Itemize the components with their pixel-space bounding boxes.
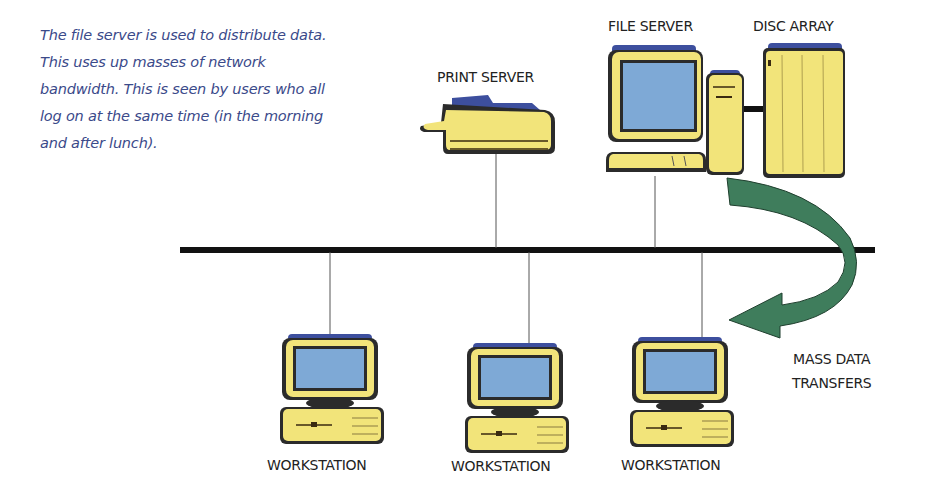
file-server-icon: [606, 45, 764, 175]
print-server-icon: [420, 95, 555, 154]
workstation-label: WORKSTATION: [267, 457, 367, 473]
print-server-label: PRINT SERVER: [437, 69, 534, 85]
arrow-label-line: MASS DATA: [792, 347, 871, 371]
workstation-icon: [630, 337, 734, 447]
arrow-label-line: TRANSFERS: [792, 371, 871, 395]
disc-array-icon: [763, 43, 845, 178]
workstation-icon: [465, 343, 569, 453]
workstation-label: WORKSTATION: [621, 457, 721, 473]
workstation-icon: [280, 334, 384, 444]
workstation-label: WORKSTATION: [451, 458, 551, 474]
disc-array-label: DISC ARRAY: [753, 18, 834, 34]
file-server-label: FILE SERVER: [608, 18, 693, 34]
mass-data-transfers-label: MASS DATA TRANSFERS: [792, 347, 871, 395]
mass-data-transfer-arrow-icon: [727, 178, 857, 338]
